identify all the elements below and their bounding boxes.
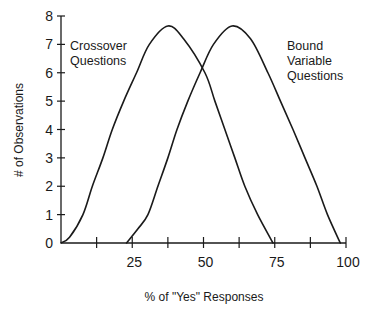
y-tick-label: 1 (45, 207, 53, 223)
y-tick-label: 8 (45, 8, 53, 24)
y-tick-label: 5 (45, 93, 53, 109)
x-ticks: 255075100 (97, 237, 360, 270)
y-tick-label: 0 (45, 235, 53, 251)
chart: 012345678 255075100 CrossoverQuestionsBo… (0, 0, 370, 313)
x-tick-label: 75 (269, 254, 285, 270)
y-tick-label: 4 (45, 122, 53, 138)
y-ticks: 012345678 (45, 8, 65, 251)
bound-variable-questions-label: BoundVariableQuestions (287, 39, 343, 83)
x-tick-label: 100 (336, 254, 360, 270)
crossover-questions-label: CrossoverQuestions (70, 39, 127, 68)
plot-area: 012345678 255075100 CrossoverQuestionsBo… (45, 8, 360, 270)
y-tick-label: 2 (45, 178, 53, 194)
x-tick-label: 25 (126, 254, 142, 270)
x-tick-label: 50 (198, 254, 214, 270)
y-tick-label: 6 (45, 65, 53, 81)
y-axis-title: # of Observations (12, 83, 26, 177)
x-axis-title: % of "Yes" Responses (145, 290, 264, 304)
y-tick-label: 3 (45, 150, 53, 166)
y-tick-label: 7 (45, 36, 53, 52)
